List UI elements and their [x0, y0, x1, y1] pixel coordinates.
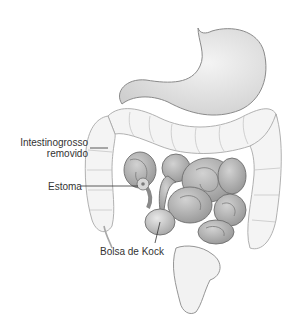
stomach [119, 28, 265, 115]
digestive-system-illustration [0, 0, 297, 330]
label-intestine-line2: removido [5, 148, 88, 159]
label-intestine-line1: Intestinogrosso [5, 137, 88, 148]
label-large-intestine-removed: Intestinogrosso removido [5, 137, 88, 159]
label-kock-pouch: Bolsa de Kock [100, 246, 164, 257]
rectum [173, 246, 220, 314]
small-intestine [124, 152, 246, 244]
label-stoma: Estoma [48, 181, 82, 192]
